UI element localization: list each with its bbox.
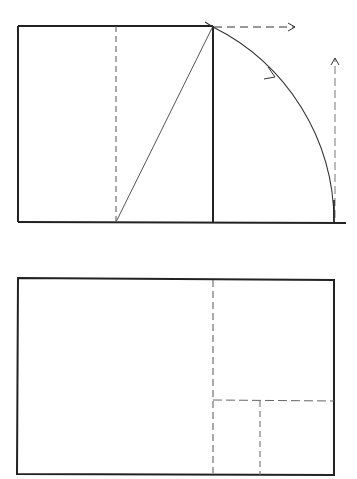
arc-direction-arrow-icon xyxy=(264,67,275,79)
sub-rectangle-divider-dashed xyxy=(213,400,334,401)
diagonal-radius xyxy=(116,26,213,222)
bottom-golden-rectangle xyxy=(17,278,334,475)
top-construction-figure xyxy=(18,22,346,223)
golden-rectangle-outline xyxy=(17,278,334,475)
arc-golden-extension xyxy=(205,22,334,222)
base-line xyxy=(18,222,346,223)
golden-ratio-diagram xyxy=(0,0,357,479)
